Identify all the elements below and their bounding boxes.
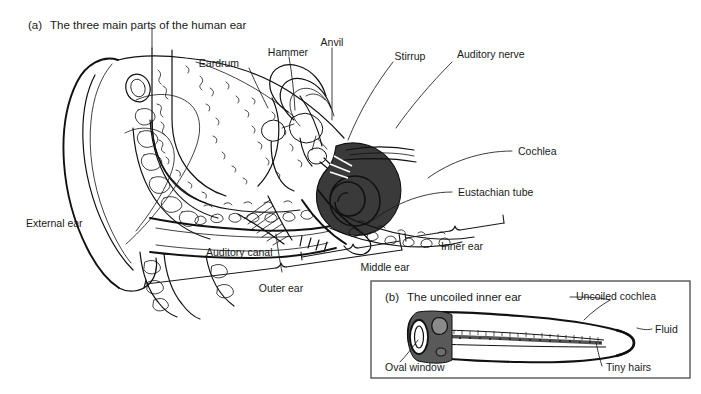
pinna-helix-fold-2 (90, 64, 131, 263)
label-eardrum: Eardrum (199, 57, 240, 69)
label-auditory-nerve: Auditory nerve (457, 48, 525, 60)
ear-anatomy-figure: (a) The three main parts of the human ea… (0, 0, 701, 394)
label-inner-ear: Inner ear (441, 240, 484, 252)
canal-wall-upper (150, 120, 218, 218)
label-cochlea: Cochlea (518, 145, 557, 157)
label-external-ear: External ear (26, 217, 83, 229)
label-stirrup: Stirrup (395, 50, 426, 62)
brace-inner-left-arm (406, 231, 450, 238)
antihelix-loop-inner (129, 77, 148, 98)
label-uncoiled-cochlea: Uncoiled cochlea (576, 290, 656, 302)
brace-middle-notch (348, 244, 358, 249)
ear-lobe (119, 258, 157, 291)
round-window-marker (436, 348, 446, 356)
middle-ear-cavity-front (258, 98, 279, 186)
leader-cochlea (428, 151, 512, 178)
hammer-head (262, 120, 286, 141)
panel-b-title: The uncoiled inner ear (407, 291, 522, 303)
panel-b-marker: (b) (385, 291, 399, 303)
label-hammer: Hammer (268, 46, 309, 58)
leader-auditory-nerve (396, 62, 452, 128)
tragus-cartilage-right (164, 254, 200, 319)
label-eustachian-tube: Eustachian tube (458, 186, 533, 198)
figure-canvas: (a) The three main parts of the human ea… (0, 0, 701, 394)
brace-middle-right-arm (358, 241, 400, 248)
label-anvil: Anvil (321, 36, 344, 48)
panel-b-inset: (b) The uncoiled inner ear (371, 281, 690, 378)
oval-window-inner (415, 326, 424, 348)
canal-bone-stipple (195, 201, 313, 225)
pinna-helix-fold (83, 75, 133, 270)
lower-left-bone (206, 256, 234, 306)
antihelix-loop (122, 71, 153, 105)
brace-inner-left-tip (405, 233, 406, 241)
leader-eardrum (249, 68, 268, 108)
pinna-outer-edge (64, 59, 119, 288)
brace-inner-right-tip (503, 215, 504, 223)
vestibule-detail (306, 94, 325, 100)
footplate-marker (432, 318, 448, 335)
mastoid-cells (135, 108, 198, 226)
brace-inner-right-arm (460, 223, 504, 230)
brace-inner-notch (450, 226, 460, 231)
panel-a-title: The three main parts of the human ear (50, 19, 246, 31)
leader-stirrup (348, 62, 393, 140)
label-middle-ear: Middle ear (360, 261, 410, 273)
label-auditory-canal: Auditory canal (206, 246, 273, 258)
brace-outer-left-arm (146, 268, 276, 284)
ear-cross-section-drawing (64, 48, 474, 319)
semicircular-canal-superior (270, 65, 326, 112)
anvil-body (289, 113, 322, 143)
brace-middle-left-tip (301, 252, 302, 260)
stirrup-head (308, 148, 327, 164)
label-outer-ear: Outer ear (259, 282, 304, 294)
eardrum-membrane (238, 196, 292, 245)
label-fluid: Fluid (655, 323, 678, 335)
panel-a-marker: (a) (28, 19, 42, 31)
label-oval-window: Oval window (385, 361, 445, 373)
label-tiny-hairs: Tiny hairs (606, 361, 651, 373)
